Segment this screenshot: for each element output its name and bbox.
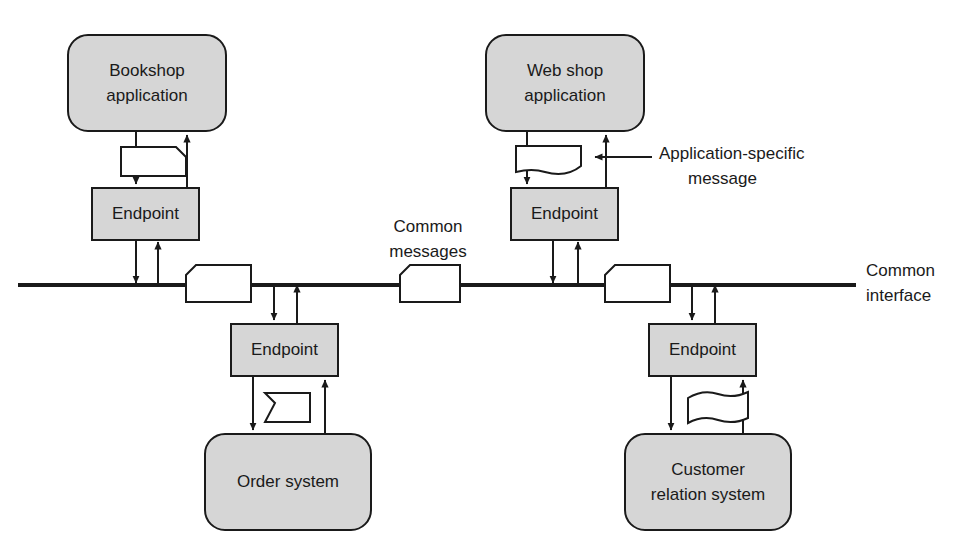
annotation-common-messages-line2: messages — [389, 242, 466, 261]
message-icon-bus-3 — [605, 265, 670, 302]
app-box-bookshop[interactable] — [68, 35, 226, 131]
annotation-common-interface-line2: interface — [866, 286, 931, 305]
annotation-application-specific-line1: Application-specific — [659, 144, 805, 163]
app-box-customer[interactable] — [625, 434, 791, 530]
message-icon-customer — [688, 392, 748, 423]
app-label-order: Order system — [237, 472, 339, 491]
message-icon-bus-2 — [400, 265, 460, 302]
diagram-svg: Bookshop application Endpoint Web shop a… — [0, 0, 965, 560]
message-icon-bus-1 — [186, 265, 251, 302]
endpoint-label-customer: Endpoint — [669, 340, 736, 359]
app-label-bookshop-line1: Bookshop — [109, 61, 185, 80]
annotation-common-messages-line1: Common — [394, 217, 463, 236]
message-icon-webshop-application-specific — [516, 146, 581, 174]
app-label-customer-line1: Customer — [671, 460, 745, 479]
annotation-common-interface-line1: Common — [866, 261, 935, 280]
endpoint-label-bookshop: Endpoint — [112, 204, 179, 223]
annotation-application-specific-line2: message — [688, 169, 757, 188]
app-label-customer-line2: relation system — [651, 485, 765, 504]
diagram-canvas: Bookshop application Endpoint Web shop a… — [0, 0, 965, 560]
endpoint-label-webshop: Endpoint — [531, 204, 598, 223]
message-icon-order — [265, 393, 310, 422]
app-label-webshop-line1: Web shop — [527, 61, 603, 80]
app-label-webshop-line2: application — [524, 86, 605, 105]
app-box-webshop[interactable] — [486, 35, 644, 131]
app-label-bookshop-line2: application — [106, 86, 187, 105]
endpoint-label-order: Endpoint — [251, 340, 318, 359]
message-icon-bookshop — [121, 147, 186, 176]
